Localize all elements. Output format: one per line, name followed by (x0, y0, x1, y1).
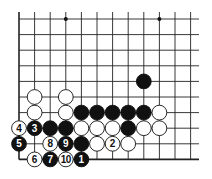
white-stone (27, 105, 42, 120)
white-stone: 10 (58, 152, 73, 167)
white-stone (121, 136, 136, 151)
move-number: 2 (110, 138, 116, 149)
white-stone (152, 121, 167, 136)
black-stone (136, 105, 151, 120)
black-stone (58, 121, 73, 136)
go-board: 43589267101 (0, 0, 212, 179)
move-number: 10 (61, 154, 72, 165)
black-stone (74, 136, 89, 151)
black-stone: 5 (12, 136, 27, 151)
move-number: 4 (16, 123, 22, 134)
white-stone (90, 136, 105, 151)
black-stone: 1 (74, 152, 89, 167)
white-stone (74, 121, 89, 136)
white-stone (27, 90, 42, 105)
white-stone: 8 (43, 136, 58, 151)
black-stone (43, 121, 58, 136)
move-number: 7 (47, 154, 53, 165)
black-stone: 3 (27, 121, 42, 136)
black-stone (74, 105, 89, 120)
white-stone: 6 (27, 152, 42, 167)
move-number: 3 (32, 123, 38, 134)
black-stone: 7 (43, 152, 58, 167)
black-stone (105, 105, 120, 120)
black-stone (90, 105, 105, 120)
white-stone (58, 90, 73, 105)
black-stone (136, 74, 151, 89)
black-stone: 9 (58, 136, 73, 151)
black-stone (121, 105, 136, 120)
black-stone (121, 121, 136, 136)
move-number: 9 (63, 138, 69, 149)
white-stone: 2 (105, 136, 120, 151)
white-stone (58, 105, 73, 120)
white-stone (105, 121, 120, 136)
white-stone (90, 121, 105, 136)
move-number: 6 (32, 154, 38, 165)
hoshi-point (64, 17, 68, 21)
move-number: 1 (79, 154, 85, 165)
white-stone (152, 105, 167, 120)
white-stone: 4 (12, 121, 27, 136)
move-number: 5 (16, 138, 22, 149)
move-number: 8 (47, 138, 53, 149)
white-stone (136, 121, 151, 136)
hoshi-point (157, 17, 161, 21)
